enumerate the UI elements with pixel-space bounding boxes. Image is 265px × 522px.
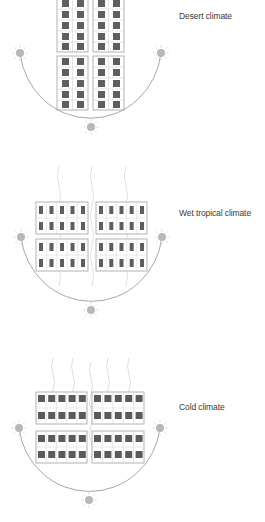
wet-tropical-diagram [0,140,265,330]
desert-climate-section: Desert climate [0,0,265,140]
desert-climate-label: Desert climate [179,11,232,21]
sun-icon [11,420,27,436]
sun-path-arc [20,53,161,118]
sun-icon [13,229,29,245]
windows [62,0,120,108]
cold-climate-section: Cold climate [0,340,265,522]
sun-icon [12,45,28,61]
sun-icon [83,119,99,135]
cold-climate-label: Cold climate [179,402,225,412]
wet-tropical-climate-label: Wet tropical climate [179,208,251,218]
sun-icon [81,492,97,508]
wet-tropical-climate-section: Wet tropical climate [0,140,265,330]
sun-icon [83,302,99,318]
cold-diagram [0,340,265,522]
sun-icon [153,45,169,61]
desert-diagram [0,0,265,140]
sun-icon [154,229,170,245]
sun-icon [152,420,168,436]
